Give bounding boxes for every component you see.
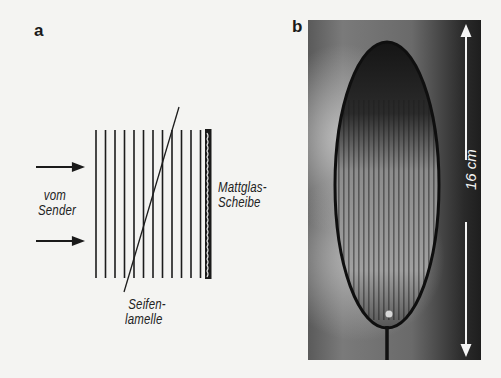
source-label-line2: Sender	[38, 203, 76, 218]
incoming-arrow-bottom	[36, 238, 82, 245]
source-label-line1: vom	[38, 188, 76, 203]
film-label: Seifen- lamelle	[125, 297, 166, 327]
soap-film-ellipse	[308, 20, 481, 360]
scale-arrow	[461, 24, 472, 357]
soap-film-photo	[308, 20, 481, 360]
plate-label-line2: Scheibe	[218, 195, 267, 210]
panel-b-label: b	[292, 18, 302, 35]
frosted-glass-plate	[205, 129, 212, 279]
plate-label-line1: Mattglas-	[218, 180, 267, 195]
source-label: vom Sender	[38, 188, 76, 218]
scale-label: 16 cm	[462, 149, 479, 190]
film-label-line2: lamelle	[125, 312, 166, 327]
incoming-arrow-top	[36, 164, 82, 171]
film-label-line1: Seifen-	[125, 297, 166, 312]
plate-label: Mattglas- Scheibe	[218, 180, 267, 210]
soap-film-line	[124, 107, 179, 292]
wavefront-lines	[96, 130, 201, 278]
